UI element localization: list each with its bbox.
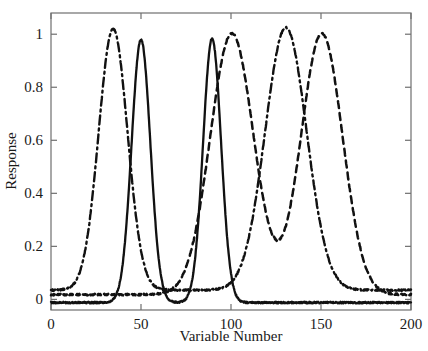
y-tick-label: 0.6 [24, 132, 43, 148]
x-tick-label: 150 [310, 316, 333, 332]
y-axis-label: Response [3, 132, 19, 190]
y-tick-label: 1 [36, 26, 44, 42]
y-tick-label: 0.2 [24, 238, 43, 254]
y-tick-label: 0.4 [24, 185, 43, 201]
y-axis-tick-labels: 00.20.40.60.81 [24, 26, 43, 307]
x-tick-label: 200 [400, 316, 423, 332]
x-axis-label: Variable Number [180, 328, 283, 344]
y-tick-label: 0 [36, 291, 44, 307]
y-tick-label: 0.8 [24, 79, 43, 95]
curve-dash-dot [51, 27, 411, 291]
x-tick-label: 0 [47, 316, 55, 332]
response-vs-variable-number-chart: 050100150200 00.20.40.60.81 Variable Num… [0, 0, 428, 351]
x-tick-label: 50 [134, 316, 149, 332]
data-curves [51, 27, 411, 303]
figure-container: 050100150200 00.20.40.60.81 Variable Num… [0, 0, 428, 351]
